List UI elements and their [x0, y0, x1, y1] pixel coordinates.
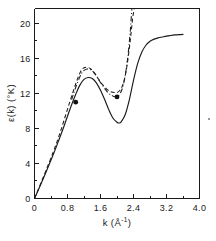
- x-axis-title-main: k (Å: [103, 217, 122, 228]
- x-tick-label: 0: [32, 203, 37, 213]
- plot-frame: [35, 9, 200, 199]
- y-tick-label: 4: [25, 159, 30, 169]
- print-artifact: [208, 118, 210, 120]
- svg-text:k (Å-1): k (Å-1): [103, 216, 132, 228]
- y-tick-label: 8: [25, 124, 30, 134]
- x-axis-title-tail: ): [128, 217, 132, 228]
- x-tick-label: 4.0: [193, 203, 206, 213]
- dashed-curve: [35, 9, 135, 199]
- y-tick-label: 0: [25, 194, 30, 204]
- x-tick-label: 3.2: [160, 203, 173, 213]
- axis-tick-labels: 00.81.62.43.24.0048121620: [20, 19, 206, 213]
- dash-dot-curve: [72, 9, 132, 100]
- x-axis-title: k (Å-1): [103, 216, 132, 228]
- solid-curve: [35, 34, 184, 198]
- x-tick-label: 0.8: [61, 203, 74, 213]
- experimental-point-2: [115, 95, 120, 100]
- y-tick-label: 16: [20, 54, 31, 64]
- y-tick-label: 12: [20, 89, 31, 99]
- axis-ticks: [35, 23, 200, 198]
- dispersion-relation-chart: 00.81.62.43.24.0048121620 k (Å-1) ε(k) (…: [0, 0, 216, 241]
- y-axis-title: ε(k) (°K): [5, 84, 16, 122]
- curve-series-group: [35, 9, 184, 199]
- y-tick-label: 20: [20, 19, 31, 29]
- x-tick-label: 1.6: [94, 203, 107, 213]
- figure-container: 00.81.62.43.24.0048121620 k (Å-1) ε(k) (…: [0, 0, 216, 241]
- x-tick-label: 2.4: [127, 203, 140, 213]
- experimental-point-1: [73, 100, 78, 105]
- y-axis-title-text: ε(k) (°K): [5, 84, 16, 122]
